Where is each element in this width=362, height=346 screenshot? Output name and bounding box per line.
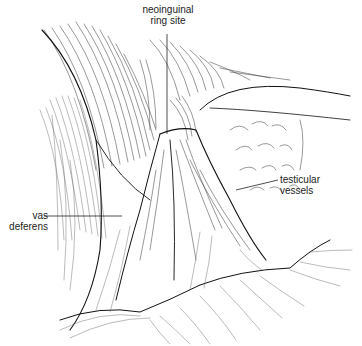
label-line: testicular [280, 174, 360, 185]
lower-fascia-hatching [60, 226, 352, 344]
label-line: neoinguinal [128, 4, 208, 15]
line-drawing [0, 0, 362, 346]
label-testicular-vessels: testicular vessels [280, 174, 360, 196]
label-vas-deferens: vas deferens [4, 210, 48, 232]
spermatic-cord [116, 129, 266, 300]
anatomical-illustration: neoinguinal ring site vas deferens testi… [0, 0, 362, 346]
label-line: ring site [128, 15, 208, 26]
label-line: vas [4, 210, 48, 221]
label-line: deferens [4, 221, 48, 232]
testicular-vessels-leader-line [236, 180, 278, 190]
label-neoinguinal-ring-site: neoinguinal ring site [128, 4, 208, 26]
label-line: vessels [280, 185, 360, 196]
